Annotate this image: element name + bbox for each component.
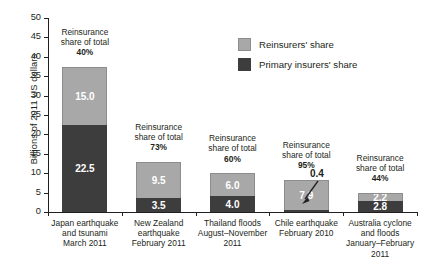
y-tick-label-20: 20 <box>1 128 41 139</box>
y-tick-5: 5 <box>44 193 48 194</box>
y-tick-15: 15 <box>44 154 48 155</box>
anno-pct-japan: 40% <box>77 47 94 57</box>
x-tick-1 <box>122 212 123 216</box>
anno-pct-new-zealand: 73% <box>150 142 167 152</box>
bar-australia: 2.22.8 <box>358 193 403 212</box>
y-tick-label-10: 10 <box>1 167 41 178</box>
plot-area: 50454035302520151050 15.022.59.53.56.04.… <box>48 18 417 212</box>
callout-arrow-icon <box>298 178 322 206</box>
y-tick-20: 20 <box>44 134 48 135</box>
anno-line2-japan: share of total <box>30 37 140 47</box>
legend-item-primary-insurers: Primary insurers' share <box>238 58 357 71</box>
category-label-thailand-line3: 2011 <box>188 238 278 248</box>
bar-thailand: 6.04.0 <box>210 173 255 212</box>
bar-segment-reinsurers-new-zealand: 9.5 <box>136 162 181 199</box>
x-tick-3 <box>269 212 270 216</box>
y-tick-label-35: 35 <box>1 70 41 81</box>
x-tick-5 <box>417 212 418 216</box>
legend-swatch-reinsurers-icon <box>238 38 251 51</box>
anno-pct-australia: 44% <box>372 173 389 183</box>
y-tick-10: 10 <box>44 173 48 174</box>
y-tick-label-0: 0 <box>1 206 41 217</box>
legend-label-primary-insurers: Primary insurers' share <box>259 59 357 70</box>
y-tick-label-15: 15 <box>1 148 41 159</box>
category-label-australia-line4: 2011 <box>335 249 421 259</box>
bar-new-zealand: 9.53.5 <box>136 162 181 212</box>
bar-japan: 15.022.5 <box>62 67 107 213</box>
y-tick-label-25: 25 <box>1 109 41 120</box>
category-label-australia-line1: Australia cyclone <box>335 218 421 228</box>
anno-line2-australia: share of total <box>325 163 421 173</box>
y-tick-25: 25 <box>44 115 48 116</box>
bar-segment-primary-thailand: 4.0 <box>210 196 255 212</box>
category-label-australia-line2: and floods <box>335 228 421 238</box>
anno-line1-australia: Reinsurance <box>325 153 421 163</box>
stacked-bar-chart: Billions of 2011 US dollars 504540353025… <box>0 0 421 272</box>
bar-segment-primary-australia: 2.8 <box>358 201 403 212</box>
anno-pct-thailand: 60% <box>224 154 241 164</box>
reinsurance-share-annotation-australia: Reinsuranceshare of total44% <box>325 153 421 184</box>
chart-legend: Reinsurers' share Primary insurers' shar… <box>238 38 357 78</box>
bar-segment-reinsurers-australia: 2.2 <box>358 193 403 202</box>
anno-line1-japan: Reinsurance <box>30 27 140 37</box>
bar-segment-reinsurers-japan: 15.0 <box>62 67 107 125</box>
legend-swatch-primary-icon <box>238 58 251 71</box>
y-tick-35: 35 <box>44 76 48 77</box>
y-tick-label-5: 5 <box>1 187 41 198</box>
legend-label-reinsurers: Reinsurers' share <box>259 39 334 50</box>
legend-item-reinsurers: Reinsurers' share <box>238 38 357 51</box>
anno-line1-chile: Reinsurance <box>251 140 361 150</box>
y-tick-label-50: 50 <box>1 12 41 23</box>
x-tick-2 <box>196 212 197 216</box>
bar-segment-primary-new-zealand: 3.5 <box>136 198 181 212</box>
bar-stack-japan: 15.022.5 <box>62 67 107 213</box>
anno-line1-new-zealand: Reinsurance <box>104 122 214 132</box>
bar-segment-primary-chile <box>284 210 329 212</box>
y-tick-30: 30 <box>44 96 48 97</box>
x-axis-line <box>48 212 417 213</box>
bar-stack-australia: 2.22.8 <box>358 193 403 212</box>
bar-stack-new-zealand: 9.53.5 <box>136 162 181 212</box>
x-tick-0 <box>48 212 49 216</box>
y-tick-50: 50 <box>44 18 48 19</box>
category-label-australia-line3: January–February <box>335 238 421 248</box>
bar-segment-primary-japan: 22.5 <box>62 125 107 212</box>
bar-stack-thailand: 6.04.0 <box>210 173 255 212</box>
bar-segment-reinsurers-thailand: 6.0 <box>210 173 255 196</box>
x-tick-4 <box>343 212 344 216</box>
reinsurance-share-annotation-japan: Reinsuranceshare of total40% <box>30 27 140 58</box>
category-label-australia: Australia cycloneand floodsJanuary–Febru… <box>335 218 421 259</box>
y-tick-label-30: 30 <box>1 90 41 101</box>
